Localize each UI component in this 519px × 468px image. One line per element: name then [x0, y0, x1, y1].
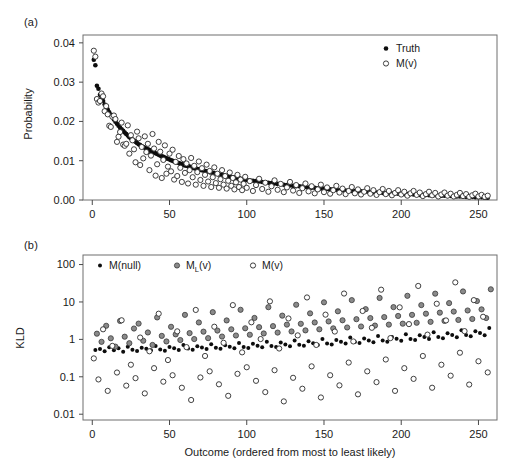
legend-marker-mlv [174, 263, 179, 268]
data-point [323, 312, 328, 317]
data-point [416, 283, 421, 288]
legend-label: M(v) [396, 57, 417, 69]
legend-label: Truth [396, 42, 420, 54]
data-point [317, 327, 322, 332]
data-point [142, 391, 147, 396]
data-point [207, 369, 212, 374]
data-point [124, 383, 129, 388]
data-point [485, 193, 490, 198]
data-point [210, 310, 215, 315]
data-point [462, 329, 467, 334]
data-point [269, 184, 274, 189]
data-point [198, 177, 203, 182]
data-point [156, 311, 161, 316]
data-point [192, 336, 197, 341]
data-point [121, 350, 125, 354]
data-point [91, 356, 96, 361]
data-point [275, 187, 280, 192]
data-point [455, 335, 459, 339]
data-point [304, 295, 309, 300]
data-point [235, 172, 240, 177]
data-point [360, 308, 365, 313]
data-point [232, 346, 236, 350]
panel-a-legend: TruthM(v) [383, 42, 420, 69]
x-tick-label: 200 [392, 208, 410, 220]
data-point [405, 293, 410, 298]
data-point [94, 331, 99, 336]
data-point [240, 350, 245, 355]
data-point [371, 340, 375, 344]
data-point [280, 313, 285, 318]
data-point [332, 329, 337, 334]
data-point [281, 190, 286, 195]
data-point [148, 153, 153, 158]
data-point [190, 175, 195, 180]
data-point [147, 349, 152, 354]
y-tick-label: 0.03 [54, 76, 75, 88]
x-tick-label: 150 [315, 428, 333, 440]
data-point [119, 120, 124, 125]
data-point [439, 362, 444, 367]
data-point [278, 181, 283, 186]
data-point [195, 170, 200, 175]
data-point [448, 373, 453, 378]
data-point [251, 342, 255, 346]
x-tick-label: 0 [89, 208, 95, 220]
data-point [100, 94, 105, 99]
data-point [187, 331, 192, 336]
data-point [108, 336, 113, 341]
data-point [224, 318, 229, 323]
data-point [290, 375, 295, 380]
data-point [328, 373, 333, 378]
x-tick-label: 50 [163, 208, 175, 220]
data-point [99, 339, 104, 344]
data-point [191, 348, 195, 352]
data-point [250, 188, 255, 193]
data-point [134, 129, 139, 134]
data-point [297, 343, 301, 347]
data-point [108, 124, 113, 129]
data-point [247, 332, 252, 337]
data-point [214, 346, 218, 350]
data-point [425, 332, 430, 337]
data-point [256, 344, 260, 348]
data-point [386, 322, 391, 327]
data-point [258, 336, 263, 341]
data-point [117, 129, 122, 134]
data-point [321, 190, 326, 195]
data-point [453, 280, 458, 285]
data-point [130, 138, 135, 143]
data-point [170, 147, 175, 152]
data-point [456, 317, 461, 322]
data-point [483, 333, 487, 337]
data-point [124, 141, 129, 146]
data-point [140, 346, 144, 350]
data-point [381, 339, 385, 343]
y-tick-label: 0.02 [54, 115, 75, 127]
data-point [418, 333, 422, 337]
data-point [335, 309, 340, 314]
data-point [436, 335, 440, 339]
data-point [266, 305, 271, 310]
panel-b-plot: 0.010.1110100050100150200250M(null)ML(v)… [0, 233, 519, 468]
data-point [409, 312, 414, 317]
data-point [161, 157, 166, 162]
legend-marker-mv [383, 61, 388, 66]
data-point [207, 168, 212, 173]
data-point [286, 316, 291, 321]
data-point [307, 339, 311, 343]
data-point [163, 349, 167, 353]
data-point [263, 180, 268, 185]
data-point [216, 382, 221, 387]
data-point [300, 386, 305, 391]
data-point [441, 336, 445, 340]
data-point [354, 317, 359, 322]
data-point [184, 161, 189, 166]
data-point [443, 318, 448, 323]
data-point [150, 342, 155, 347]
data-point [446, 331, 450, 335]
data-point [380, 186, 385, 191]
data-point [450, 333, 454, 337]
data-point [215, 171, 220, 176]
data-point [176, 153, 181, 158]
